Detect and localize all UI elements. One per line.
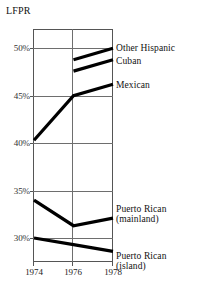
pr-mainland-line1: Puerto Rican [116, 204, 167, 214]
series-label-cuban: Cuban [116, 56, 141, 66]
pr-island-line1: Puerto Rican [116, 251, 167, 261]
ytick-label-30: 30% [0, 233, 30, 243]
pr-mainland-line2: (mainland) [116, 214, 167, 224]
series-line-puerto-rican-island [34, 238, 113, 251]
series-lines [34, 48, 113, 251]
xtick-label-1974: 1974 [16, 267, 52, 277]
series-line-cuban [74, 60, 114, 71]
pr-island-line2: (island) [116, 261, 167, 271]
ytick-label-40: 40% [0, 138, 30, 148]
series-line-other-hispanic [74, 48, 114, 59]
ytick-label-50: 50% [0, 43, 30, 53]
series-label-mexican: Mexican [116, 80, 150, 90]
series-label-other-hispanic: Other Hispanic [116, 43, 175, 53]
ytick-label-35: 35% [0, 186, 30, 196]
series-line-puerto-rican-mainland [34, 200, 113, 226]
xtick-label-1976: 1976 [55, 267, 91, 277]
chart-container: LFPR 50% 45% 40% 35% 30% [0, 0, 199, 291]
ytick-label-45: 45% [0, 91, 30, 101]
series-label-puerto-rican-island: Puerto Rican (island) [116, 251, 167, 271]
series-label-puerto-rican-mainland: Puerto Rican (mainland) [116, 204, 167, 224]
series-line-mexican [34, 84, 113, 140]
